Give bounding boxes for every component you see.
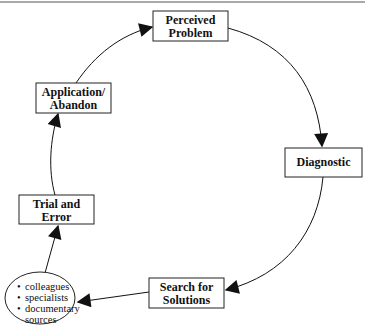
node-label-line: Problem: [169, 26, 213, 40]
source-item: documentary: [25, 303, 81, 314]
edge-sources-to-trial: [45, 226, 58, 273]
node-search-for-solutions: Search for Solutions: [149, 278, 224, 308]
node-perceived-problem: Perceived Problem: [153, 11, 228, 41]
node-label-line: Application/: [42, 85, 106, 99]
edge-application-to-perceived: [76, 27, 152, 83]
node-label-line: Diagnostic: [297, 155, 352, 169]
bullet-icon: •: [17, 303, 21, 314]
node-sources: • colleagues • specialists • documentary…: [5, 272, 81, 325]
node-label-line: Search for: [160, 280, 214, 294]
edge-search-to-sources: [78, 292, 149, 302]
bullet-icon: •: [17, 292, 21, 303]
source-item: colleagues: [25, 281, 69, 292]
edge-diagnostic-to-search: [226, 177, 323, 290]
node-diagnostic: Diagnostic: [285, 148, 362, 177]
node-label-line: Error: [42, 210, 72, 224]
node-label-line: Solutions: [163, 293, 211, 307]
edge-trial-to-application: [51, 114, 58, 195]
node-label-line: Trial and: [33, 197, 81, 211]
edge-perceived-to-diagnostic: [228, 28, 322, 146]
node-application-abandon: Application/ Abandon: [36, 83, 111, 113]
source-item: sources: [25, 314, 57, 325]
node-label-line: Abandon: [50, 98, 98, 112]
source-item: specialists: [25, 292, 68, 303]
cycle-diagram: Perceived Problem Diagnostic Search for …: [0, 0, 365, 335]
bullet-icon: •: [17, 281, 21, 292]
node-label-line: Perceived: [166, 13, 216, 27]
node-trial-and-error: Trial and Error: [19, 195, 94, 224]
